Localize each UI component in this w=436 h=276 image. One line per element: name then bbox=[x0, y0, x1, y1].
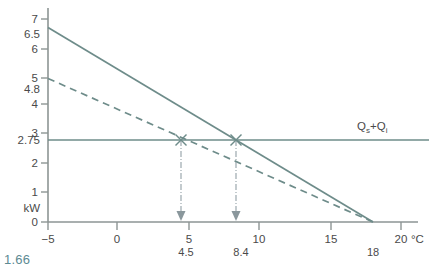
y-callout-4-8: 4.8 bbox=[24, 83, 40, 95]
drop-line-8-4 bbox=[231, 135, 242, 222]
y-tick-label-6: 6 bbox=[32, 43, 38, 55]
chart-svg: 0 1 2 3 4 5 6 7 6.5 4.8 2.75 kW −5 bbox=[0, 0, 436, 276]
x-tick-label-minus5: −5 bbox=[41, 233, 54, 245]
x-tick-label-20: 20 bbox=[395, 233, 408, 245]
x-tick-label-0: 0 bbox=[114, 233, 120, 245]
legend-q2-sub: i bbox=[386, 126, 388, 135]
y-axis-tick-labels: 0 1 2 3 4 5 6 7 bbox=[32, 13, 39, 228]
drop-line-4-5 bbox=[176, 135, 187, 222]
series-line-solid bbox=[48, 28, 373, 222]
x-callout-18: 18 bbox=[367, 246, 379, 258]
legend-q1: Q bbox=[357, 120, 366, 132]
x-axis-tick-labels: −5 0 5 10 15 20 bbox=[41, 233, 407, 245]
y-tick-label-0: 0 bbox=[32, 216, 38, 228]
y-tick-label-4: 4 bbox=[32, 98, 39, 110]
x-tick-label-5: 5 bbox=[186, 233, 192, 245]
figure-caption: 1.66 bbox=[4, 252, 30, 267]
chart-container: 0 1 2 3 4 5 6 7 6.5 4.8 2.75 kW −5 bbox=[0, 0, 436, 276]
x-axis-ticks bbox=[48, 222, 401, 230]
x-tick-label-10: 10 bbox=[253, 233, 266, 245]
y-tick-label-7: 7 bbox=[32, 13, 38, 25]
y-callout-2-75: 2.75 bbox=[18, 134, 40, 146]
x-callout-8-4: 8.4 bbox=[233, 246, 248, 258]
y-tick-label-2: 2 bbox=[32, 157, 38, 169]
legend-label-qs-qi: Qs+Qi bbox=[357, 120, 388, 135]
svg-text:Qs+Qi: Qs+Qi bbox=[357, 120, 388, 135]
y-tick-label-1: 1 bbox=[32, 186, 38, 198]
series-line-dashed bbox=[48, 79, 373, 223]
x-tick-label-15: 15 bbox=[325, 233, 338, 245]
y-callout-6-5: 6.5 bbox=[24, 28, 40, 40]
x-axis-unit-label: °C bbox=[411, 233, 424, 245]
x-axis-value-callouts: 4.5 8.4 18 bbox=[178, 246, 379, 258]
y-axis-unit-label: kW bbox=[23, 202, 40, 214]
x-callout-4-5: 4.5 bbox=[178, 246, 193, 258]
y-axis-ticks bbox=[41, 19, 48, 222]
legend-q2: Q bbox=[377, 120, 386, 132]
